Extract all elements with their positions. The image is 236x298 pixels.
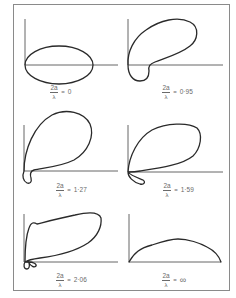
panel-4-pattern-curve [128, 124, 200, 184]
ratio-fraction: 2a λ [163, 183, 171, 198]
ratio-fraction: 2a λ [162, 85, 170, 100]
panel-2-plot [128, 19, 223, 81]
ratio-fraction: 2a λ [50, 85, 58, 100]
equals-sign: = [61, 89, 65, 95]
fraction-numerator: 2a [56, 183, 64, 191]
panel-1-plot [25, 19, 118, 84]
equals-sign: = [174, 187, 178, 193]
fraction-denominator: λ [53, 93, 56, 100]
panel-6-plot [129, 214, 221, 262]
fraction-numerator: 2a [50, 85, 58, 93]
panel-5-label: 2a λ = 2·06 [56, 273, 87, 288]
panel-6-label: 2a λ = ∞ [162, 273, 186, 288]
fraction-denominator: λ [166, 191, 169, 198]
panel-1-label: 2a λ = 0 [50, 85, 71, 100]
ratio-fraction: 2a λ [162, 273, 170, 288]
fraction-numerator: 2a [56, 273, 64, 281]
fraction-denominator: λ [59, 191, 62, 198]
panel-3-label: 2a λ = 1·27 [56, 183, 87, 198]
panel-2-pattern-curve [128, 19, 197, 81]
panel-4-label: 2a λ = 1·59 [163, 183, 194, 198]
ratio-value: ∞ [180, 276, 186, 285]
equals-sign: = [173, 89, 177, 95]
fraction-denominator: λ [165, 281, 168, 288]
ratio-value: 1·59 [181, 187, 194, 194]
ratio-value: 1·27 [74, 187, 87, 194]
equals-sign: = [67, 277, 71, 283]
ratio-value: 0 [68, 89, 72, 96]
ratio-value: 2·06 [74, 277, 87, 284]
panel-5-pattern-curve [24, 213, 101, 269]
panel-5-plot [24, 213, 118, 269]
panel-3-plot [23, 112, 118, 184]
equals-sign: = [67, 187, 71, 193]
panel-2-label: 2a λ = 0·95 [162, 85, 193, 100]
ratio-fraction: 2a λ [56, 183, 64, 198]
radiation-pattern-figure [0, 0, 236, 298]
equals-sign: = [173, 277, 177, 283]
fraction-numerator: 2a [163, 183, 171, 191]
panel-3-pattern-curve [23, 112, 92, 184]
fraction-numerator: 2a [162, 273, 170, 281]
fraction-denominator: λ [59, 281, 62, 288]
panel-4-plot [128, 124, 223, 184]
panel-6-pattern-curve [129, 239, 221, 262]
ratio-value: 0·95 [180, 89, 193, 96]
fraction-denominator: λ [165, 93, 168, 100]
ratio-fraction: 2a λ [56, 273, 64, 288]
fraction-numerator: 2a [162, 85, 170, 93]
